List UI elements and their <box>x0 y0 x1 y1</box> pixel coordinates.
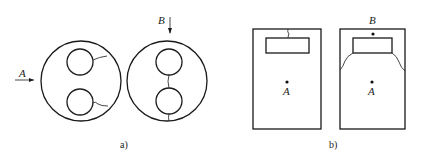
plate-left: A <box>253 29 321 129</box>
arrow-b: B <box>158 14 172 34</box>
plate-right-slot <box>353 38 392 53</box>
arrow-b-label: B <box>158 14 165 26</box>
plate-left-outline <box>253 29 321 129</box>
plate-right: B A <box>340 14 405 129</box>
arrow-b-head-icon <box>168 28 172 34</box>
disc-left <box>41 41 121 121</box>
point-a-right-label: A <box>367 85 375 97</box>
crack-line-plate-left <box>288 29 289 38</box>
point-a-left-marker <box>285 80 288 83</box>
plate-left-slot <box>266 38 309 53</box>
arrow-a-head-icon <box>29 78 34 82</box>
caption-a: a) <box>120 139 128 151</box>
inner-hole-bottom-right <box>156 88 182 114</box>
crack-line-top-left <box>93 56 107 60</box>
figure-b: A B A b) <box>253 14 405 151</box>
point-a-left-label: A <box>282 85 290 97</box>
arrow-a-label: A <box>18 67 26 79</box>
point-b-marker <box>371 32 374 35</box>
crack-line-bottom-right <box>169 114 170 121</box>
disc-right <box>127 41 207 121</box>
point-a-right-marker <box>370 80 373 83</box>
inner-hole-bottom-left <box>67 89 93 115</box>
outer-circle-left <box>41 41 121 121</box>
inner-hole-top-right <box>156 49 182 75</box>
diagram-canvas: A B a) A <box>0 0 421 158</box>
figure-a: A B a) <box>15 14 207 151</box>
arrow-a: A <box>15 67 34 82</box>
crack-line-between-holes <box>168 75 169 88</box>
crack-line-plate-right-left <box>340 53 353 70</box>
inner-hole-top-left <box>67 49 93 75</box>
outer-circle-right <box>127 41 207 121</box>
plate-right-outline <box>340 29 405 129</box>
crack-line-bottom-left <box>92 102 108 106</box>
caption-b: b) <box>329 139 337 151</box>
crack-line-plate-right-right <box>392 53 405 71</box>
point-b-label: B <box>369 14 376 26</box>
